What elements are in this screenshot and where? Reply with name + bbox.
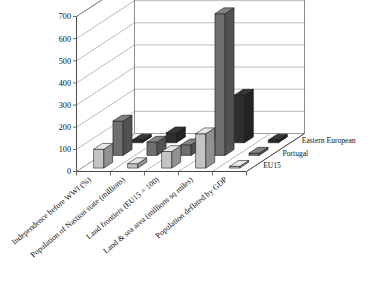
- bar-front-face: [249, 153, 259, 155]
- y-tick-label: 0: [67, 167, 71, 176]
- bar-side-face: [244, 89, 253, 142]
- bar-side-face: [225, 8, 234, 156]
- bar-side-face: [123, 115, 132, 155]
- bar-front-face: [113, 121, 123, 155]
- bar-front-face: [132, 140, 142, 143]
- bar-side-face: [206, 128, 215, 168]
- bar-eu15-cat0: [94, 143, 113, 168]
- legend-label-eastern-european: Eastern European: [302, 136, 356, 145]
- y-tick-label: 500: [59, 57, 71, 66]
- legend-label-portugal: Portugal: [283, 149, 309, 158]
- bar-front-face: [94, 149, 104, 168]
- legend-label-eu15: EU15: [263, 161, 281, 170]
- bar-chart-3d: 0100200300400500600700 Independence befo…: [0, 0, 370, 294]
- bar-front-face: [268, 140, 278, 143]
- chart-container: 0100200300400500600700 Independence befo…: [0, 0, 370, 294]
- bar-front-face: [234, 95, 244, 143]
- y-tick-label: 100: [59, 145, 71, 154]
- bar-front-face: [128, 164, 138, 168]
- bar-portugal-cat3: [215, 8, 234, 156]
- bar-front-face: [181, 145, 191, 156]
- bar-portugal-cat0: [113, 115, 132, 155]
- bar-front-face: [215, 14, 225, 156]
- y-tick-label: 700: [59, 12, 71, 21]
- bar-front-face: [196, 134, 206, 168]
- y-tick-label: 300: [59, 101, 71, 110]
- bar-front-face: [162, 151, 172, 168]
- y-tick-label: 600: [59, 35, 71, 44]
- bar-front-face: [147, 142, 157, 155]
- bar-eu15-cat3: [196, 128, 215, 168]
- bar-eastern-european-cat3: [234, 89, 253, 142]
- bar-front-face: [166, 133, 176, 143]
- y-tick-label: 200: [59, 123, 71, 132]
- y-tick-label: 400: [59, 79, 71, 88]
